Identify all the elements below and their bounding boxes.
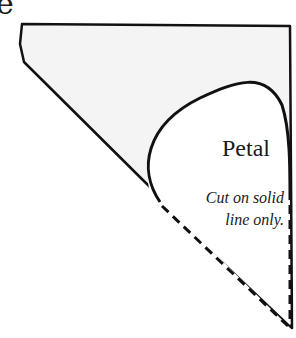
cut-instruction-line-1: Cut on solid: [206, 187, 284, 209]
template-drawing: [0, 0, 296, 338]
cut-instruction: Cut on solid line only.: [206, 187, 284, 231]
petal-label: Petal: [222, 135, 270, 162]
cut-instruction-line-2: line only.: [206, 209, 284, 231]
